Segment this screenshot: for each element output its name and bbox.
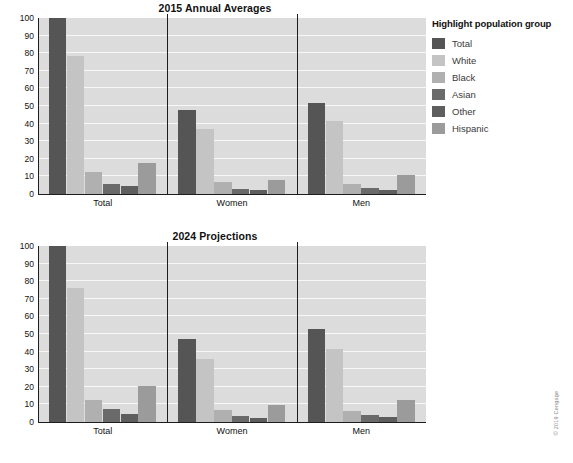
bar-total-asian bbox=[103, 409, 120, 422]
bar-women-hispanic bbox=[268, 405, 285, 422]
bar-total-asian bbox=[103, 184, 120, 194]
bar-total-other bbox=[121, 186, 138, 194]
y-tick-label-70: 70 bbox=[25, 294, 34, 304]
bar-total-hispanic bbox=[138, 386, 155, 422]
y-tick-label-10: 10 bbox=[25, 171, 34, 181]
y-tick-label-50: 50 bbox=[25, 329, 34, 339]
bar-men-white bbox=[326, 349, 343, 422]
legend-item-label: Asian bbox=[452, 89, 476, 100]
x-axis-line-2024 bbox=[38, 422, 426, 423]
legend-swatch-hispanic-icon bbox=[432, 123, 445, 134]
gridline-50 bbox=[38, 105, 426, 106]
bar-men-total bbox=[308, 329, 325, 422]
y-tick-label-60: 60 bbox=[25, 83, 34, 93]
legend-item-total[interactable]: Total bbox=[432, 35, 572, 52]
plot-wrap-2024: Percent 0102030405060708090100TotalWomen… bbox=[38, 246, 426, 422]
x-axis-line-2015 bbox=[38, 194, 426, 195]
gridline-80 bbox=[38, 280, 426, 281]
gridline-60 bbox=[38, 315, 426, 316]
legend-item-white[interactable]: White bbox=[432, 52, 572, 69]
plot-area-2015 bbox=[38, 18, 426, 194]
bar-men-hispanic bbox=[397, 400, 414, 422]
y-tick-label-40: 40 bbox=[25, 119, 34, 129]
bar-men-white bbox=[326, 121, 343, 194]
y-tick-label-0: 0 bbox=[29, 417, 34, 427]
bar-total-black bbox=[85, 400, 102, 422]
y-tick-label-90: 90 bbox=[25, 259, 34, 269]
y-axis-line-2024 bbox=[38, 246, 39, 422]
legend-item-label: Black bbox=[452, 72, 475, 83]
y-tick-label-80: 80 bbox=[25, 276, 34, 286]
legend-swatch-black-icon bbox=[432, 72, 445, 83]
legend-item-label: White bbox=[452, 55, 476, 66]
group-separator bbox=[167, 242, 168, 422]
legend-item-other[interactable]: Other bbox=[432, 103, 572, 120]
bar-women-white bbox=[196, 129, 213, 194]
x-tick-label-women: Women bbox=[217, 198, 248, 208]
legend-title: Highlight population group bbox=[432, 18, 572, 29]
bar-total-total bbox=[49, 18, 66, 194]
y-tick-label-90: 90 bbox=[25, 31, 34, 41]
y-tick-label-0: 0 bbox=[29, 189, 34, 199]
bar-women-total bbox=[178, 339, 195, 422]
bar-total-total bbox=[49, 246, 66, 422]
bar-men-hispanic bbox=[397, 175, 414, 194]
bar-women-black bbox=[214, 410, 231, 422]
bar-women-white bbox=[196, 359, 213, 422]
bar-women-hispanic bbox=[268, 180, 285, 194]
gridline-40 bbox=[38, 351, 426, 352]
bar-total-hispanic bbox=[138, 163, 155, 194]
group-separator bbox=[167, 14, 168, 194]
chart-panel-2024: 2024 Projections Percent 010203040506070… bbox=[0, 228, 573, 453]
y-tick-label-30: 30 bbox=[25, 364, 34, 374]
bar-men-total bbox=[308, 103, 325, 194]
x-tick-label-men: Men bbox=[353, 198, 371, 208]
legend-item-label: Other bbox=[452, 106, 476, 117]
legend: Highlight population group TotalWhiteBla… bbox=[432, 18, 572, 137]
y-tick-label-50: 50 bbox=[25, 101, 34, 111]
gridline-70 bbox=[38, 70, 426, 71]
y-tick-label-30: 30 bbox=[25, 136, 34, 146]
plot-wrap-2015: Percent 0102030405060708090100TotalWomen… bbox=[38, 18, 426, 194]
gridline-20 bbox=[38, 158, 426, 159]
gridline-40 bbox=[38, 123, 426, 124]
y-tick-label-20: 20 bbox=[25, 382, 34, 392]
legend-item-label: Total bbox=[452, 38, 472, 49]
x-tick-label-women: Women bbox=[217, 426, 248, 436]
y-tick-label-100: 100 bbox=[20, 13, 34, 23]
x-tick-label-total: Total bbox=[93, 198, 112, 208]
legend-item-asian[interactable]: Asian bbox=[432, 86, 572, 103]
legend-swatch-white-icon bbox=[432, 55, 445, 66]
legend-swatch-total-icon bbox=[432, 38, 445, 49]
legend-item-hispanic[interactable]: Hispanic bbox=[432, 120, 572, 137]
gridline-30 bbox=[38, 368, 426, 369]
x-tick-label-men: Men bbox=[353, 426, 371, 436]
gridline-30 bbox=[38, 140, 426, 141]
bar-women-black bbox=[214, 182, 231, 194]
plot-area-2024 bbox=[38, 246, 426, 422]
y-axis-line-2015 bbox=[38, 18, 39, 194]
bar-total-white bbox=[67, 288, 84, 422]
y-tick-label-20: 20 bbox=[25, 154, 34, 164]
bar-total-white bbox=[67, 56, 84, 194]
y-tick-label-60: 60 bbox=[25, 311, 34, 321]
gridline-90 bbox=[38, 35, 426, 36]
legend-swatch-other-icon bbox=[432, 106, 445, 117]
bar-women-total bbox=[178, 110, 195, 194]
bar-men-asian bbox=[361, 415, 378, 422]
bar-total-black bbox=[85, 172, 102, 194]
figure-bar-chart-pair: 2015 Annual Averages Percent 01020304050… bbox=[0, 0, 573, 463]
y-tick-label-10: 10 bbox=[25, 399, 34, 409]
gridline-50 bbox=[38, 333, 426, 334]
gridline-90 bbox=[38, 263, 426, 264]
gridline-60 bbox=[38, 87, 426, 88]
y-tick-label-70: 70 bbox=[25, 66, 34, 76]
legend-swatch-asian-icon bbox=[432, 89, 445, 100]
bar-men-black bbox=[343, 411, 360, 422]
group-separator bbox=[297, 242, 298, 422]
gridline-70 bbox=[38, 298, 426, 299]
legend-item-black[interactable]: Black bbox=[432, 69, 572, 86]
bar-total-other bbox=[121, 414, 138, 422]
chart-title-2015: 2015 Annual Averages bbox=[0, 2, 430, 14]
y-tick-label-40: 40 bbox=[25, 347, 34, 357]
